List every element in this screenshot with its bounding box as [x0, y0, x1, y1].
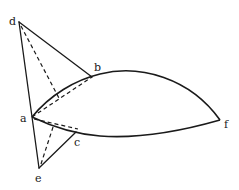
label-e: e: [35, 172, 42, 185]
geometry-diagram: d b a c e f: [0, 0, 239, 190]
dashed-d-to-arc: [21, 26, 60, 100]
segment-e-c: [39, 132, 76, 168]
label-f: f: [224, 118, 229, 131]
upper-arc-a-b-f: [32, 71, 220, 120]
dashed-a-b: [32, 77, 92, 117]
label-d: d: [9, 15, 16, 28]
label-a: a: [20, 112, 27, 125]
segment-d-e: [19, 22, 39, 168]
label-b: b: [94, 61, 101, 74]
segment-d-b: [19, 22, 92, 77]
dashed-e-to-arc: [41, 124, 54, 164]
lower-arc-a-c-f: [32, 117, 220, 137]
label-c: c: [74, 136, 80, 149]
